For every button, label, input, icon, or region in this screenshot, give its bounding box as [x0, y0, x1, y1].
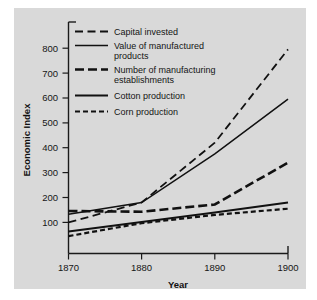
series-line-capital-invested	[69, 49, 289, 222]
chart-legend: Capital invested Value of manufactured p…	[75, 27, 216, 117]
chart-page: 800 700 600 500 400 300 200 100 1870 188…	[0, 0, 317, 300]
x-axis-title: Year	[168, 279, 188, 290]
y-tick-label: 700	[42, 68, 58, 79]
y-tick-label: 200	[42, 192, 58, 203]
economic-index-line-chart: 800 700 600 500 400 300 200 100 1870 188…	[0, 0, 317, 300]
x-tick-label: 1880	[131, 262, 152, 273]
x-axis-ticks	[69, 254, 289, 260]
y-tick-label: 400	[42, 142, 58, 153]
y-tick-label: 600	[42, 92, 58, 103]
legend-label-value-of-manufactured-products: Value of manufactured	[114, 41, 204, 51]
series-line-corn-production	[69, 209, 289, 236]
x-tick-label: 1900	[277, 262, 298, 273]
x-tick-label: 1890	[204, 262, 225, 273]
x-tick-label: 1870	[58, 262, 79, 273]
legend-label-capital-invested: Capital invested	[114, 27, 178, 37]
y-axis-ticks	[63, 48, 69, 222]
y-tick-label: 300	[42, 167, 58, 178]
legend-label-value-of-manufactured-products-line2: products	[114, 51, 149, 61]
series-line-value-of-manufactured-products	[69, 99, 289, 214]
y-axis-title: Economic Index	[21, 103, 32, 177]
legend-label-number-of-manufacturing-establishments: Number of manufacturing	[114, 65, 216, 75]
y-tick-label: 800	[42, 43, 58, 54]
series-line-number-of-manufacturing-establishments	[69, 163, 289, 212]
y-tick-label: 100	[42, 217, 58, 228]
legend-label-cotton-production: Cotton production	[114, 91, 185, 101]
y-tick-label: 500	[42, 117, 58, 128]
x-axis-tick-labels: 1870 1880 1890 1900	[58, 262, 299, 273]
y-axis-tick-labels: 800 700 600 500 400 300 200 100	[42, 43, 58, 228]
legend-label-number-of-manufacturing-establishments-line2: establishments	[114, 75, 175, 85]
legend-label-corn-production: Corn production	[114, 107, 178, 117]
